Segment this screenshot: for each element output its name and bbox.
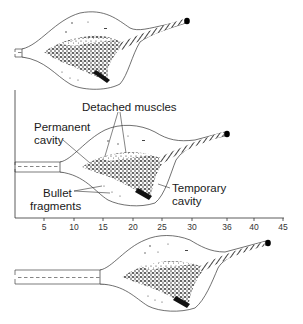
label-bullet-fragments-line2: fragments (30, 200, 81, 212)
x-tick-label: 10 (69, 222, 78, 232)
x-tick-label: 25 (157, 222, 166, 232)
x-tick-label: 40 (249, 222, 258, 232)
label-permanent-cavity-line2: cavity (34, 134, 63, 146)
diagram-drawing (0, 0, 303, 324)
x-tick-label: 5 (42, 222, 47, 232)
label-temporary-cavity-line1: Temporary (172, 182, 226, 194)
label-temporary-cavity-line2: cavity (172, 195, 201, 207)
x-tick-label: 30 (187, 222, 196, 232)
x-tick-label: 20 (128, 222, 137, 232)
label-bullet-fragments-line1: Bullet (43, 187, 72, 199)
label-permanent-cavity-line1: Permanent (34, 121, 90, 133)
x-tick-label: 15 (98, 222, 107, 232)
wound-ballistics-diagram: Detached muscles Permanent cavity Bullet… (0, 0, 303, 324)
stage-3-cavity (15, 236, 271, 312)
stage-1-cavity (15, 12, 190, 89)
x-tick-label: 45 (278, 222, 287, 232)
label-detached-muscles: Detached muscles (82, 101, 177, 113)
x-tick-label: 36 (222, 222, 231, 232)
